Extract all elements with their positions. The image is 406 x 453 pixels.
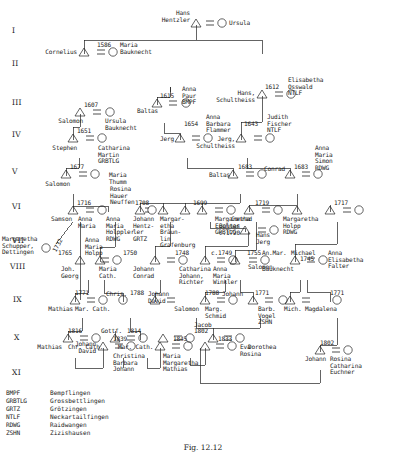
legend-code: NTLF: [6, 413, 50, 421]
person-elisabetha-osswald: Elisabetha Osswald NTLF: [288, 77, 323, 97]
legend-row: RDWG Raidwangen: [6, 421, 109, 429]
person-johann-hentzler: Johann Hentz- ler GRTZ: [133, 216, 154, 242]
generation-label-10: X: [14, 333, 20, 342]
legend-row: ZSHN Zizishausen: [6, 429, 109, 437]
person-anna-maria-g6: Anna Maria: [78, 216, 96, 229]
person-margaretha-braunlin: Margar- etha Bräun- lin Grafenburg: [160, 216, 195, 249]
person-joh-georg: Joh. Georg: [61, 266, 79, 279]
marriage-year-1612: 1612: [265, 84, 279, 91]
person-judith-fischer: Judith Fischer NTLF: [267, 114, 292, 134]
marriage-year-1699: 1699: [193, 200, 207, 207]
marriage-year-1814: 1814: [127, 328, 141, 335]
legend-row: GRTZ Grötzingen: [6, 405, 109, 413]
marriage-year-1651: 1651: [77, 128, 91, 135]
person-rosina-hauer: Rosina Hauer Neuffen: [110, 186, 135, 206]
marriage-year-1771b: 1771: [255, 290, 269, 297]
person-salomon-g5: Salomon: [23, 181, 70, 188]
marriage-year-1755: 1755: [247, 250, 261, 257]
person-baltas-g5: Baltas: [192, 172, 230, 179]
person-mar-cath-g9: Mar. Cath.: [75, 306, 110, 313]
figure-caption: Fig. 12.12: [0, 443, 406, 452]
person-cornelius: Cornelius: [30, 49, 77, 56]
generation-label-1: I: [12, 26, 15, 35]
legend-row: NTLF Neckartailfingen: [6, 413, 109, 421]
legend-place: Grötzingen: [50, 405, 109, 413]
person-chris: Chris.: [106, 291, 127, 298]
marriage-year-1765: 1765: [58, 250, 72, 257]
marriage-year-1802a: 1802: [194, 328, 208, 335]
person-johann-david-g9: Johann David: [148, 291, 169, 304]
person-magdalena: Magdalena: [305, 306, 337, 313]
person-eva-rosina: Eva Rosina: [240, 344, 261, 357]
marriage-year-1771c: 1771: [330, 290, 344, 297]
person-maria-bauknecht: Maria Bauknecht: [120, 42, 152, 55]
marriage-year-1833: 1833: [218, 336, 232, 343]
legend-place: Zizishausen: [50, 429, 109, 437]
marriage-year-1708: 1708: [135, 200, 149, 207]
person-jerg-g4: Jerg: [140, 136, 174, 143]
person-margaretha-euchner: Margaretha Euchner GRBTLG: [215, 216, 250, 236]
legend-place: Bempflingen: [50, 389, 109, 397]
marriage-year-1586: 1586: [97, 42, 111, 49]
pedigree-chart: I II III IV V VI VII VIII IX X XI Hans H…: [0, 0, 406, 453]
person-maria-cath: Maria Cath.: [99, 266, 117, 279]
legend-code: GRBTLG: [6, 397, 50, 405]
person-salomon-g9: Salomon: [154, 306, 199, 313]
generation-label-4: IV: [12, 130, 21, 139]
generation-label-9: IX: [13, 295, 22, 304]
marriage-year-1719: 1719: [255, 200, 269, 207]
generation-label-2: II: [12, 59, 19, 68]
person-anna-maria-holpp: Anna Maria Holpp: [85, 237, 103, 257]
person-johann-david-g11: Johann David: [52, 341, 96, 354]
place-abbreviation-legend: BMPF Bempflingen GRBTLG Grossbettlingen …: [6, 389, 109, 438]
legend-place: Raidwangen: [50, 421, 109, 429]
person-johann-g10: Johann: [282, 356, 326, 363]
person-ursula-g1: Ursula: [229, 20, 250, 27]
person-mar-cath-g10: Mar. Cath.: [118, 344, 153, 351]
legend-place: Neckartailfingen: [50, 413, 109, 421]
marriage-year-1654: 1654: [184, 121, 198, 128]
marriage-year-1750: 1750: [123, 250, 137, 257]
marriage-year-1677: 1677: [70, 164, 84, 171]
person-margaretha-schupper: Margaretha Schupper, Dettingen: [2, 236, 37, 256]
marriage-year-1683b: 1683: [294, 164, 308, 171]
legend-code: ZSHN: [6, 429, 50, 437]
person-conrad-g5: Conrad: [245, 166, 285, 173]
marriage-year-1615: 1615: [160, 93, 174, 100]
person-anna-maria-winkler: Anna Maria Winkler: [213, 266, 238, 286]
marriage-year-1771a: 1771: [75, 290, 89, 297]
legend-row: GRBTLG Grossbettlingen: [6, 397, 109, 405]
person-salomon-g3: Salomon: [37, 118, 83, 125]
generation-label-11: XI: [12, 368, 21, 377]
person-anna-paur: Anna Paur BMPF: [182, 86, 196, 106]
person-gottf: Gottf.: [101, 328, 122, 335]
person-johann-g9: Johann: [222, 291, 243, 298]
person-catharina-martin: Catharina Martin GRBTLG: [98, 145, 130, 165]
marriage-year-1643: 1643: [244, 121, 258, 128]
person-barb-vogel: Barb. Vogel ZSHN: [258, 306, 276, 326]
marriage-year-1607: 1607: [84, 102, 98, 109]
person-hans-jerg: Hans Jerg: [256, 232, 270, 245]
person-johann-conrad: Johann Conrad: [133, 266, 154, 279]
person-anna-barbara-flammer: Anna Barbara Flammer: [206, 114, 231, 134]
legend-code: BMPF: [6, 389, 50, 397]
marriage-year-1802b: 1802: [320, 340, 334, 347]
marriage-year-1717: 1717: [334, 200, 348, 207]
legend-code: GRTZ: [6, 405, 50, 413]
marriage-year-1816: 1816: [68, 328, 82, 335]
generation-label-6: VI: [12, 202, 21, 211]
person-stephen: Stephen: [30, 145, 77, 152]
person-anna-maria-holppler: Anna Maria Holppler RDWG: [106, 216, 134, 242]
person-mich: Mich.: [284, 306, 302, 313]
generation-label-8: VIII: [10, 262, 26, 271]
person-hans-schultheiss: Hans, Schultheiss: [209, 90, 255, 103]
legend-place: Grossbettlingen: [50, 397, 109, 405]
person-catharina-johann-richter: Catharina Johann, Richter: [179, 266, 211, 286]
marriage-year-1748: 1748: [175, 250, 189, 257]
person-bauknecht: Bauknecht: [262, 266, 294, 273]
legend-code: RDWG: [6, 421, 50, 429]
person-maria-thumm: Maria Thumm: [109, 172, 127, 185]
person-marg-schmid: Marg. Schmid: [205, 306, 226, 319]
person-baltas-g3: Baltas: [118, 108, 158, 115]
generation-label-3: III: [12, 98, 22, 107]
